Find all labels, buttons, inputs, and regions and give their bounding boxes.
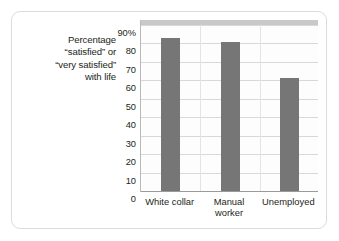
y-tick-30: 30 bbox=[104, 139, 136, 149]
y-tick-20: 20 bbox=[104, 157, 136, 167]
y-tick-10: 10 bbox=[104, 176, 136, 186]
x-tick-label-line: White collar bbox=[145, 196, 194, 207]
x-axis-tick-labels: White collarManualworkerUnemployed bbox=[140, 196, 318, 230]
x-tick-manual-worker: Manualworker bbox=[214, 196, 245, 219]
y-tick-50: 50 bbox=[104, 102, 136, 112]
bar-series bbox=[141, 20, 318, 192]
y-tick-90: 90% bbox=[104, 28, 136, 38]
x-tick-white-collar: White collar bbox=[145, 196, 194, 207]
x-tick-unemployed: Unemployed bbox=[262, 196, 315, 207]
x-axis-line bbox=[141, 191, 318, 192]
y-tick-0: 0 bbox=[104, 194, 136, 204]
x-tick-label-line: Manual bbox=[214, 196, 245, 207]
x-tick-label-line: Unemployed bbox=[262, 196, 315, 207]
x-tick-label-line: worker bbox=[214, 207, 245, 218]
chart-card: Percentage “satisfied” or “very satisfie… bbox=[11, 11, 327, 229]
y-tick-80: 80 bbox=[104, 46, 136, 56]
y-axis-tick-labels: 0102030405060708090% bbox=[100, 20, 136, 192]
plot-background bbox=[140, 20, 318, 192]
bar-unemployed bbox=[280, 78, 299, 191]
y-tick-60: 60 bbox=[104, 83, 136, 93]
bar-manual-worker bbox=[221, 42, 240, 191]
plot-area bbox=[140, 20, 318, 192]
y-tick-70: 70 bbox=[104, 65, 136, 75]
bar-white-collar bbox=[161, 38, 180, 191]
y-tick-40: 40 bbox=[104, 120, 136, 130]
